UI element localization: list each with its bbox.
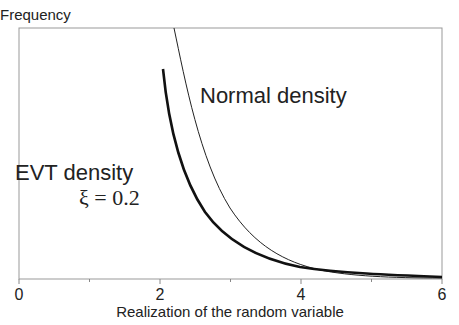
plot-frame: [19, 28, 442, 279]
normal-density-label: Normal density: [200, 83, 347, 109]
x-ticks: [19, 279, 442, 284]
x-tick-2: 2: [156, 286, 165, 304]
xi-parameter-label: ξ = 0.2: [79, 185, 140, 211]
x-axis-label: Realization of the random variable: [116, 303, 344, 320]
x-tick-4: 4: [297, 286, 306, 304]
x-tick-6: 6: [438, 286, 447, 304]
x-tick-0: 0: [15, 286, 24, 304]
evt-density-label: EVT density: [15, 160, 133, 186]
normal-density-curve: [174, 28, 442, 278]
